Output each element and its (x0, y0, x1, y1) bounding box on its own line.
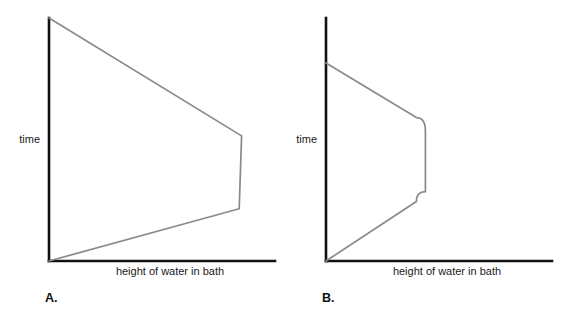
panel-a-curve (49, 18, 242, 261)
panel-b-x-axis-label: height of water in bath (393, 265, 501, 277)
panel-a-y-axis-label: time (19, 133, 40, 145)
panel-a: time height of water in bath A. (19, 18, 275, 305)
panel-b-letter: B. (322, 291, 335, 305)
panel-b: time height of water in bath B. (296, 18, 552, 305)
panel-a-x-axis-label: height of water in bath (116, 265, 224, 277)
panel-b-y-axis-label: time (296, 133, 317, 145)
figure-canvas: time height of water in bath A. time hei… (0, 0, 566, 327)
bath-water-figure: time height of water in bath A. time hei… (0, 0, 566, 327)
panel-b-curve (326, 63, 425, 261)
panel-a-letter: A. (45, 291, 58, 305)
